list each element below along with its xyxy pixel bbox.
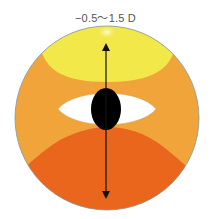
lens-diagram bbox=[0, 0, 211, 219]
highlight bbox=[97, 25, 117, 39]
